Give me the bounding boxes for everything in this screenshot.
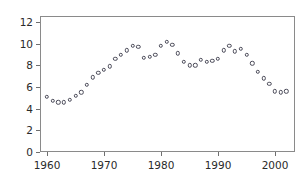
x-tick-mark	[218, 152, 219, 156]
scatter-chart: 024681012 19601970198019902000	[0, 0, 308, 185]
x-tick-mark	[47, 152, 48, 156]
x-tick-label: 1990	[205, 160, 232, 171]
x-tick-label: 1980	[148, 160, 175, 171]
x-tick-label: 1960	[34, 160, 61, 171]
x-tick-label: 2000	[262, 160, 289, 171]
x-tick-mark	[161, 152, 162, 156]
x-tick-mark	[104, 152, 105, 156]
x-axis: 19601970198019902000	[0, 0, 308, 185]
x-tick-mark	[275, 152, 276, 156]
x-tick-label: 1970	[91, 160, 118, 171]
